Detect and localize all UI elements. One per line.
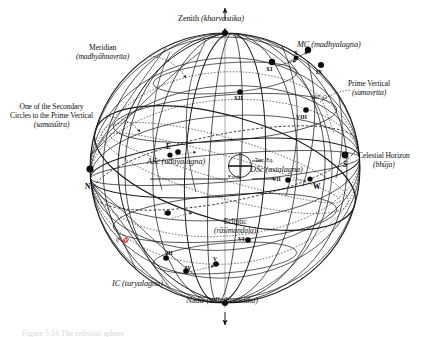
aries-point-label: 0° ♈ — [116, 237, 128, 243]
house-label-x: X — [294, 50, 298, 56]
marker-w — [307, 176, 312, 181]
terrestrial-equator-label: Terr. Eq. — [255, 157, 274, 163]
marker-n — [86, 165, 93, 172]
nadir-label: Nadir (adhaḥsvastika) — [186, 296, 258, 306]
cusp-arrow-iv — [188, 266, 214, 272]
meridian-label: Meridian (madhyāhnavṛtta) — [76, 44, 129, 62]
figure-canvas: Zenith (kharvastika) Nadir (adhaḥsvastik… — [0, 0, 444, 337]
cardinal-south: S — [343, 160, 347, 169]
house-label-ix: IX — [316, 69, 322, 75]
figure-caption: Figure 5.14 The celestial sphere — [22, 329, 124, 337]
node-label: 180° ☊ — [311, 94, 327, 100]
house-label-iv: IV — [185, 265, 191, 271]
house-label-xi: XI — [266, 66, 272, 72]
midheaven-label: MC (madhyalagna) — [297, 40, 361, 50]
secondary-circle-label: One of the Secondary Circles to the Prim… — [10, 103, 93, 130]
cardinal-west: W — [313, 182, 320, 191]
marker-vi — [245, 237, 251, 243]
marker-iii — [163, 255, 169, 261]
marker-viii — [303, 107, 309, 113]
marker-v — [213, 261, 219, 267]
ascendant-label: ASc (udayalagna) — [147, 157, 205, 167]
marker-xi — [269, 59, 275, 65]
cusp-arrow-ii — [172, 213, 192, 218]
marker-vii — [285, 177, 291, 183]
marker-xii — [237, 89, 243, 95]
marker-zenith-dot — [222, 30, 228, 36]
house-label-vii: VII — [272, 176, 281, 182]
house-label-viii: VIII — [296, 114, 307, 120]
celestial-horizon-label: Celestial Horizon (bhūja) — [358, 152, 410, 170]
zenith-label: Zenith (kharvastika) — [178, 14, 244, 24]
house-label-ii: II — [164, 210, 169, 216]
cardinal-east: E — [166, 142, 171, 151]
house-label-iii: III — [166, 250, 173, 256]
imum-coeli-label: IC (turyalagna) — [112, 279, 163, 289]
marker-x — [294, 56, 299, 61]
cardinal-north: N — [85, 182, 90, 191]
prime-vertical-label: Prime Vertical (samavṛtta) — [348, 80, 390, 98]
marker-ix — [318, 62, 324, 68]
marker-s — [342, 152, 349, 159]
marker-asc — [175, 149, 181, 155]
house-label-v: V — [213, 256, 217, 262]
house-label-vi: VI — [238, 236, 244, 242]
descendant-label: DSc (astalagna) — [250, 165, 303, 175]
house-label-xii: XII — [234, 95, 243, 101]
earth-label: Earth — [228, 174, 240, 180]
ecliptic-label: Ecliptic (rāśimaṇḍala) — [214, 218, 256, 236]
